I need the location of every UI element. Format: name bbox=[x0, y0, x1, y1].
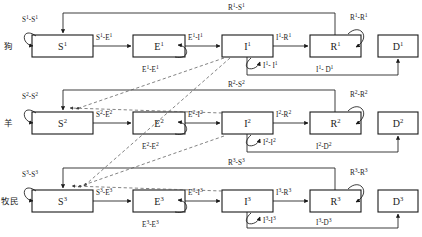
row-label-dog: 狗 bbox=[4, 41, 13, 51]
node-R2-sup: 2 bbox=[337, 117, 340, 124]
edge-label-I3-D3: I3-D3 bbox=[316, 217, 332, 227]
edge-label-R3-self: R3-R3 bbox=[350, 167, 368, 177]
edge-label-R1-self: R1-R1 bbox=[350, 12, 368, 22]
edge-label-S2-E2: S2-E2 bbox=[96, 109, 113, 119]
node-D2-sup: 2 bbox=[400, 117, 403, 124]
edge-label-R1-S1: R1-S1 bbox=[228, 2, 245, 12]
row-dog: 狗 S1 E1 I1 R1 D1 S1-S1 S1-E1 E1-E1 E1-I1… bbox=[4, 2, 418, 75]
node-E1-sup: 1 bbox=[160, 40, 163, 47]
row-label-sheep: 羊 bbox=[4, 118, 13, 128]
edge-label-I3-self: I3-I3 bbox=[263, 215, 276, 225]
row-herdsman: 牧民 S3 E3 I3 R3 D3 S3-S3 S3-E3 E3-E3 E3-I… bbox=[1, 157, 418, 229]
edge-label-I2-self: I2-I2 bbox=[263, 137, 276, 147]
edge-label-S1-E1: S1-E1 bbox=[96, 32, 113, 42]
edge-label-I2-R2: I2-R2 bbox=[276, 109, 291, 119]
node-D1-sup: 1 bbox=[400, 40, 403, 47]
edge-label-R2-S2: R2-S2 bbox=[228, 79, 245, 89]
node-S2-sup: 2 bbox=[64, 117, 67, 124]
row-sheep: 羊 S2 E2 I2 R2 D2 S2-S2 S2-E2 E2-E2 E2-I2… bbox=[4, 79, 418, 152]
edge-I1-S3 bbox=[84, 58, 230, 186]
edge-label-E2-self: E2-E2 bbox=[142, 141, 159, 151]
edge-label-S3-E3: S3-E3 bbox=[96, 187, 113, 197]
edge-label-S2-self: S2-S2 bbox=[22, 91, 38, 101]
edge-label-E1-self: E1-E1 bbox=[142, 64, 159, 74]
edge-I3-self bbox=[246, 213, 260, 224]
edge-label-R2-self: R2-R2 bbox=[350, 89, 368, 99]
node-I1-sup: 1 bbox=[248, 40, 251, 47]
edge-label-I1-self: I1- I1 bbox=[263, 60, 278, 70]
node-R1-sup: 1 bbox=[337, 40, 340, 47]
edge-label-E1-I1: E1-I1 bbox=[188, 32, 203, 42]
edge-label-I3-R3: I3-R3 bbox=[276, 187, 291, 197]
node-S1-sup: 1 bbox=[64, 40, 67, 47]
edge-I2-self bbox=[246, 135, 260, 146]
edge-label-E3-I3: E3-I3 bbox=[188, 187, 203, 197]
edge-I1-self bbox=[246, 58, 260, 69]
node-I2-sup: 2 bbox=[248, 117, 251, 124]
edge-label-I1-D1: I1- D1 bbox=[316, 64, 334, 74]
edge-label-E2-I2: E2-I2 bbox=[188, 109, 203, 119]
diagram-canvas: 狗 S1 E1 I1 R1 D1 S1-S1 S1-E1 E1-E1 E1-I1… bbox=[0, 0, 422, 237]
edge-label-R3-S3: R3-S3 bbox=[228, 157, 245, 167]
edge-label-S1-self: S1-S1 bbox=[22, 14, 38, 24]
edge-label-S3-self: S3-S3 bbox=[22, 169, 38, 179]
edge-label-I2-D2: I2-D2 bbox=[316, 141, 332, 151]
edge-label-E3-self: E3-E3 bbox=[142, 219, 159, 229]
edge-label-I1-R1: I1-R1 bbox=[276, 32, 291, 42]
row-label-herdsman: 牧民 bbox=[1, 196, 19, 206]
transmission-diagram: 狗 S1 E1 I1 R1 D1 S1-S1 S1-E1 E1-E1 E1-I1… bbox=[0, 0, 422, 237]
